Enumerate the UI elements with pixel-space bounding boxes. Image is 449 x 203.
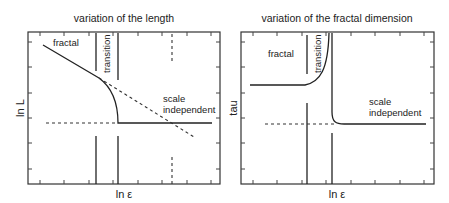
x-axis-label: ln ε xyxy=(116,188,133,200)
y-axis-label: tau xyxy=(227,100,239,115)
label-independent: independent xyxy=(163,104,216,115)
label-scale: scale xyxy=(369,96,391,107)
y-axis-label: ln L xyxy=(14,99,26,117)
x-axis-label: ln ε xyxy=(329,188,346,200)
label-scale: scale xyxy=(163,93,185,104)
panel-title: variation of the fractal dimension xyxy=(261,12,412,24)
panel-fractal-dimension: variation of the fractal dimension xyxy=(227,12,434,200)
label-transition: transition xyxy=(312,34,323,73)
panel-title: variation of the length xyxy=(74,12,175,24)
figure: variation of the length xyxy=(0,0,449,203)
label-fractal: fractal xyxy=(268,48,294,59)
panel-length: variation of the length xyxy=(14,12,220,200)
label-fractal: fractal xyxy=(53,37,79,48)
label-independent: independent xyxy=(369,107,422,118)
y-ticks xyxy=(241,42,434,169)
label-transition: transition xyxy=(101,34,112,73)
